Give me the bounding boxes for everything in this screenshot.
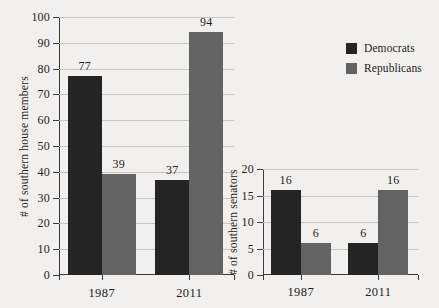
y-tick-mark [257, 196, 263, 197]
y-tick-mark [53, 69, 59, 70]
chart-house-members: # of southern house members 010203040506… [59, 17, 234, 275]
y-tick-label: 0 [248, 268, 254, 283]
bar-house-1987-republicans: 39 [102, 174, 136, 275]
y-tick-mark [53, 120, 59, 121]
bar-house-1987-democrats: 77 [68, 76, 102, 275]
x-axis-end-cap [234, 275, 235, 280]
y-tick-label: 20 [38, 216, 50, 231]
chart-legend: Democrats Republicans [346, 38, 422, 78]
legend-label-republicans: Republicans [364, 62, 422, 74]
legend-swatch-republicans-icon [346, 63, 357, 74]
y-tick-mark [53, 146, 59, 147]
y-tick-label: 30 [38, 190, 50, 205]
bar-value-label: 16 [280, 173, 292, 188]
y-tick-label: 50 [38, 139, 50, 154]
x-tick-mark [102, 275, 103, 280]
bar-value-label: 77 [79, 59, 91, 74]
y-tick-mark [53, 94, 59, 95]
y-tick-mark [53, 17, 59, 18]
bar-value-label: 94 [200, 15, 212, 30]
y-tick-label: 100 [31, 10, 50, 25]
y-tick-label: 5 [248, 241, 254, 256]
y-tick-label: 0 [44, 268, 50, 283]
chart-senators: # of southern senators 05101520166198761… [263, 169, 418, 275]
y-tick-label: 80 [38, 61, 50, 76]
bar-value-label: 6 [313, 226, 319, 241]
bar-value-label: 39 [113, 157, 125, 172]
x-tick-mark [378, 275, 379, 280]
y-tick-label: 10 [242, 215, 254, 230]
bar-value-label: 6 [360, 226, 366, 241]
bar-house-2011-democrats: 37 [155, 180, 189, 275]
chart-senate-plot-area: 0510152016619876162011 [263, 169, 418, 275]
y-tick-label: 70 [38, 87, 50, 102]
y-tick-mark [53, 43, 59, 44]
figure-canvas: # of southern house members 010203040506… [0, 0, 439, 308]
y-tick-mark [53, 223, 59, 224]
gridline [263, 169, 418, 170]
y-tick-mark [53, 198, 59, 199]
y-tick-label: 10 [38, 242, 50, 257]
x-category-label: 1987 [287, 285, 314, 300]
chart-house-plot-area: 01020304050607080901007739198737942011 [59, 17, 234, 275]
y-tick-mark [257, 169, 263, 170]
x-category-label: 1987 [88, 286, 115, 301]
legend-item-republicans: Republicans [346, 58, 422, 78]
chart-house-ylabel: # of southern house members [18, 76, 30, 217]
bar-value-label: 16 [387, 173, 399, 188]
y-tick-mark [53, 249, 59, 250]
bar-senate-1987-republicans: 6 [301, 243, 331, 275]
y-tick-label: 90 [38, 35, 50, 50]
x-axis-end-cap [59, 275, 60, 280]
y-tick-mark [257, 222, 263, 223]
y-tick-label: 60 [38, 113, 50, 128]
x-axis-end-cap [263, 275, 264, 280]
y-tick-mark [53, 172, 59, 173]
y-tick-label: 15 [242, 188, 254, 203]
bar-senate-2011-democrats: 6 [348, 243, 378, 275]
x-tick-mark [301, 275, 302, 280]
bar-value-label: 37 [166, 163, 178, 178]
x-tick-mark [189, 275, 190, 280]
legend-label-democrats: Democrats [364, 42, 415, 54]
bar-house-2011-republicans: 94 [189, 32, 223, 275]
x-category-label: 2011 [176, 286, 202, 301]
y-tick-label: 40 [38, 164, 50, 179]
chart-senate-ylabel: # of southern senators [227, 169, 239, 275]
legend-item-democrats: Democrats [346, 38, 422, 58]
x-category-label: 2011 [365, 285, 391, 300]
y-tick-label: 20 [242, 162, 254, 177]
bar-senate-2011-republicans: 16 [378, 190, 408, 275]
bar-senate-1987-democrats: 16 [271, 190, 301, 275]
legend-swatch-democrats-icon [346, 43, 357, 54]
y-tick-mark [257, 249, 263, 250]
x-axis-end-cap [418, 275, 419, 280]
